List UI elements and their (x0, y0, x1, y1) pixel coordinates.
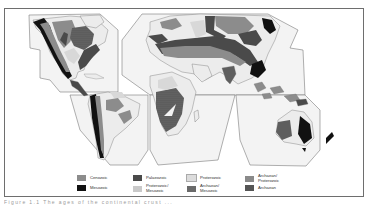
legend-item-archaean-proterozoic: Archaean/ Proterozoic (245, 174, 295, 183)
swatch-archaean-mesozoic (187, 186, 196, 192)
new-zealand (326, 132, 334, 144)
legend-label: Proterozoic (200, 176, 221, 181)
legend-label: Archaean/ Mesozoic (200, 184, 231, 193)
legend-item-palaeozoic: Palaeozoic (133, 175, 167, 181)
legend-label: Mesozoic (90, 186, 108, 191)
legend-item-archaean-mesozoic: Archaean/ Mesozoic (187, 184, 231, 193)
legend-item-proterozoic: Proterozoic (187, 175, 221, 181)
swatch-palaeozoic (133, 175, 142, 181)
swatch-cenozoic (77, 175, 86, 181)
swatch-proterozoic (187, 175, 196, 181)
legend-label: Palaeozoic (146, 176, 167, 181)
swatch-proterozoic-mesozoic (133, 186, 142, 192)
legend-label: Archaean (258, 186, 276, 191)
swatch-mesozoic (77, 185, 86, 191)
legend-item-proterozoic-mesozoic: Proterozoic/ Mesozoic (133, 184, 179, 193)
legend-item-mesozoic: Mesozoic (77, 185, 108, 191)
figure-caption: Figure 1.1 The ages of the continental c… (4, 199, 366, 207)
legend-label: Proterozoic/ Mesozoic (146, 184, 179, 193)
map-legend: Cenozoic Mesozoic Palaeozoic Proterozoic… (77, 175, 317, 195)
legend-item-archaean: Archaean (245, 185, 276, 191)
legend-item-cenozoic: Cenozoic (77, 175, 107, 181)
legend-label: Cenozoic (90, 176, 107, 181)
swatch-archaean-proterozoic (245, 176, 254, 182)
legend-label: Archaean/ Proterozoic (258, 174, 295, 183)
swatch-archaean (245, 185, 254, 191)
